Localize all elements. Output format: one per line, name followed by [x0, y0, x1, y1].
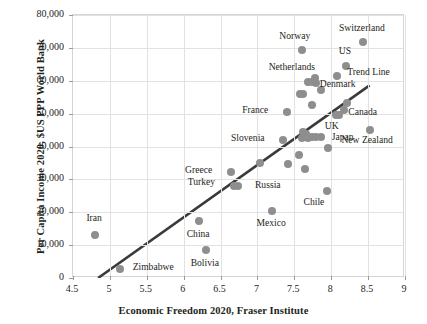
gridline-horizontal — [73, 147, 403, 148]
y-tick-mark — [69, 179, 73, 180]
y-tick-mark — [69, 245, 73, 246]
data-point[interactable] — [308, 101, 316, 109]
scatter-chart: Per Capita Income 2020, $US PPP World Ba… — [0, 0, 427, 324]
data-point-label: Bolivia — [165, 258, 245, 269]
gridline-vertical — [147, 15, 148, 276]
gridline-vertical — [294, 15, 295, 276]
data-point[interactable] — [91, 231, 99, 239]
data-point-label: Chile — [274, 197, 354, 208]
data-point-label: Denmark — [298, 79, 378, 90]
data-point-label: New Zealand — [327, 135, 407, 146]
data-point-label: Iran — [54, 213, 134, 224]
x-tick-label: 5.5 — [126, 283, 166, 294]
data-point-label: Turkey — [188, 177, 215, 188]
x-tick-label: 8 — [310, 283, 350, 294]
x-axis-title: Economic Freedom 2020, Fraser Institute — [0, 305, 427, 316]
x-tick-mark — [257, 276, 258, 280]
data-point-label: UK — [292, 121, 372, 132]
y-tick-mark — [69, 15, 73, 16]
y-tick-label: 80,000 — [4, 8, 64, 19]
data-point[interactable] — [279, 136, 287, 144]
data-point[interactable] — [359, 38, 367, 46]
data-point-label: France — [242, 105, 268, 116]
x-tick-label: 8.5 — [347, 283, 387, 294]
x-tick-mark — [110, 276, 111, 280]
gridline-horizontal — [73, 15, 403, 16]
y-tick-mark — [69, 147, 73, 148]
x-tick-label: 6 — [163, 283, 203, 294]
y-tick-mark — [69, 81, 73, 82]
data-point[interactable] — [323, 187, 331, 195]
x-tick-label: 7.5 — [273, 283, 313, 294]
data-point-label: Netherlands — [252, 62, 332, 73]
x-tick-mark — [147, 276, 148, 280]
data-point[interactable] — [301, 165, 309, 173]
y-tick-label: 10,000 — [4, 238, 64, 249]
gridline-vertical — [110, 15, 111, 276]
y-tick-mark — [69, 114, 73, 115]
gridline-vertical — [257, 15, 258, 276]
x-tick-mark — [331, 276, 332, 280]
x-tick-label: 9 — [384, 283, 424, 294]
data-point-label: Canada — [323, 107, 403, 118]
data-point[interactable] — [312, 133, 320, 141]
data-point[interactable] — [202, 246, 210, 254]
data-point[interactable] — [283, 108, 291, 116]
x-tick-mark — [73, 276, 74, 280]
x-tick-mark — [368, 276, 369, 280]
x-tick-mark — [294, 276, 295, 280]
data-point-label: Russia — [255, 180, 281, 191]
data-point-label: Greece — [185, 165, 212, 176]
data-point-label: China — [158, 229, 238, 240]
x-tick-label: 6.5 — [200, 283, 240, 294]
y-tick-label: 50,000 — [4, 107, 64, 118]
data-point-label: Mexico — [231, 218, 311, 229]
data-point[interactable] — [256, 159, 264, 167]
data-point-label: Switzerland — [322, 23, 402, 34]
data-point-label: US — [305, 46, 385, 57]
x-tick-mark — [405, 276, 406, 280]
y-tick-label: 30,000 — [4, 172, 64, 183]
y-tick-mark — [69, 278, 73, 279]
data-point[interactable] — [195, 217, 203, 225]
x-tick-mark — [221, 276, 222, 280]
y-tick-label: 70,000 — [4, 41, 64, 52]
data-point[interactable] — [234, 182, 242, 190]
y-tick-label: 60,000 — [4, 74, 64, 85]
data-point-label: Slovenia — [231, 133, 265, 144]
data-point[interactable] — [299, 90, 307, 98]
y-tick-label: 0 — [4, 271, 64, 282]
data-point[interactable] — [284, 160, 292, 168]
y-tick-mark — [69, 48, 73, 49]
data-point[interactable] — [227, 168, 235, 176]
x-tick-mark — [184, 276, 185, 280]
x-tick-label: 5 — [89, 283, 129, 294]
data-point[interactable] — [295, 151, 303, 159]
gridline-horizontal — [73, 179, 403, 180]
y-tick-label: 40,000 — [4, 140, 64, 151]
trend-line-annotation: Trend Line — [329, 67, 409, 78]
x-tick-label: 7 — [236, 283, 276, 294]
x-tick-label: 4.5 — [52, 283, 92, 294]
gridline-horizontal — [73, 245, 403, 246]
